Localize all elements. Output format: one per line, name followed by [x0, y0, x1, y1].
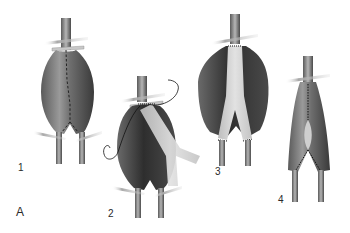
step-4-sac-closed: [285, 56, 330, 202]
iliac-left: [219, 140, 225, 166]
step-1-aneurysm: [33, 18, 102, 164]
panel-letter: A: [16, 206, 24, 218]
iliac-right: [245, 140, 251, 166]
surgical-illustration: 1 2 3 4 A: [0, 0, 350, 233]
aneurysm-sac: [41, 50, 94, 134]
iliac-right: [79, 132, 85, 164]
step-2-graft-proximal: [104, 76, 200, 218]
illustration-svg: [0, 0, 350, 233]
step-3-label: 3: [215, 167, 221, 177]
aorta-proximal: [61, 18, 71, 50]
iliac-left: [292, 170, 298, 202]
step-1-label: 1: [18, 163, 24, 173]
step-2-label: 2: [108, 209, 114, 219]
iliac-right: [318, 170, 324, 202]
step-4-label: 4: [278, 195, 284, 205]
step-3-graft-in-place: [198, 14, 269, 166]
